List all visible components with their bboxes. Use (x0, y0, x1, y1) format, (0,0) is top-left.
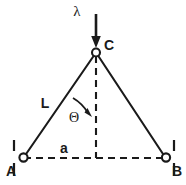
load-label: λ (73, 3, 81, 19)
load-arrow-head-icon (91, 36, 101, 48)
half-span-label-a: a (60, 140, 68, 156)
angle-label-theta: Θ (69, 110, 79, 125)
support-pin-A (19, 153, 27, 161)
diagram-canvas: λ C L Θ a A B (0, 0, 186, 185)
support-label-A: A (6, 163, 16, 179)
apex-pin-joint (92, 49, 100, 57)
support-pin-B (162, 153, 170, 161)
apex-label-C: C (104, 37, 114, 53)
truss-diagram-figure: λ C L Θ a A B (0, 0, 186, 185)
member-length-label-L: L (41, 95, 50, 111)
support-label-B: B (172, 163, 182, 179)
member-right (97, 54, 165, 157)
